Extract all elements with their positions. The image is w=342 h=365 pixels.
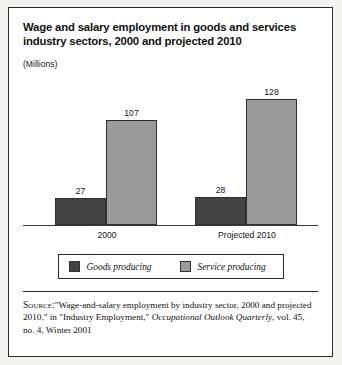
legend-swatch-icon-goods [69,261,80,272]
bar-value-goods-2010: 28 [216,185,226,195]
bar-service-2000 [106,120,157,225]
category-label-2000: 2000 [97,230,116,240]
axis-unit-label: (Millions) [23,59,318,69]
legend-label-goods: Goods producing [87,262,152,272]
title-block: Wage and salary employment in goods and … [9,8,332,69]
source-publication-title: Occupational Outlook Quarterly [152,312,272,322]
category-label-projected-2010: Projected 2010 [218,230,276,240]
bar-value-goods-2000: 27 [76,186,86,196]
source-label: Source: [23,299,55,310]
source-note: Source:"Wage-and-salary employment by in… [23,299,318,336]
bar-group-projected-2010: 28 128 [195,75,297,225]
plot-area: 27 107 28 128 [23,75,318,225]
legend-item-goods-producing: Goods producing [69,261,152,272]
legend-swatch-icon-service [180,261,191,272]
figure-page: Wage and salary employment in goods and … [0,0,342,365]
page-title: Wage and salary employment in goods and … [23,20,318,48]
bar-value-service-2000: 107 [124,108,138,118]
legend-label-service: Service producing [198,262,266,272]
bar-goods-2010 [195,197,246,225]
bar-service-2010 [246,99,297,225]
bar-wrap-service-2000: 107 [106,108,157,225]
legend-item-service-producing: Service producing [180,261,266,272]
bar-wrap-goods-2010: 28 [195,185,246,225]
bar-wrap-service-2010: 128 [246,87,297,225]
chart-legend: Goods producing Service producing [58,254,284,279]
figure-frame: Wage and salary employment in goods and … [8,7,333,357]
source-divider [23,291,318,292]
bar-goods-2000 [55,198,106,225]
category-axis-labels: 2000 Projected 2010 [23,225,318,245]
bar-group-2000: 27 107 [55,75,157,225]
bar-wrap-goods-2000: 27 [55,186,106,225]
bar-value-service-2010: 128 [264,87,278,97]
